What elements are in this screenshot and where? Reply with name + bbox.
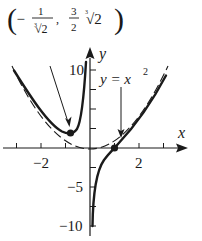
svg-text:2: 2 <box>71 21 77 33</box>
x-axis-label: x <box>177 124 185 141</box>
svg-text:3: 3 <box>71 5 77 17</box>
svg-text:): ) <box>114 2 124 36</box>
svg-text:2: 2 <box>143 66 148 77</box>
svg-text:(: ( <box>7 2 17 36</box>
tick-label-neg5: −5 <box>67 179 83 195</box>
tick-label-10: 10 <box>69 62 84 78</box>
curve-right-branch <box>93 76 167 227</box>
svg-text:1: 1 <box>38 5 44 17</box>
svg-text:y = x: y = x <box>98 71 131 87</box>
svg-text:√2: √2 <box>86 11 102 27</box>
x-axis <box>3 143 188 153</box>
tick-label-neg2: −2 <box>33 155 49 171</box>
tick-label-2: 2 <box>135 155 143 171</box>
y-axis-label: y <box>97 45 107 63</box>
min-point-annotation: ( − 1 3 √2 , 3 2 3 √2 ) <box>7 2 124 36</box>
svg-text:−: − <box>17 11 25 27</box>
parabola-label: y = x 2 <box>98 66 148 87</box>
svg-text:√2: √2 <box>35 22 48 36</box>
x-intercept-point <box>111 144 118 151</box>
svg-text:,: , <box>56 12 59 26</box>
local-min-point <box>67 129 74 136</box>
graph: ( − 1 3 √2 , 3 2 3 √2 ) y = x 2 y x −2 2… <box>0 0 202 241</box>
tick-label-neg10: −10 <box>59 218 82 234</box>
annotation-arrow-parabola <box>118 87 125 138</box>
y-axis-arrow-icon <box>86 47 95 59</box>
y-axis <box>86 47 97 236</box>
